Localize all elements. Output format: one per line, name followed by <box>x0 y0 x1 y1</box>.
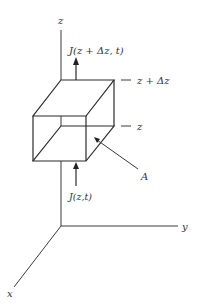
x-axis-label: x <box>7 288 13 299</box>
flux-bottom-label: J(z,t) <box>67 191 92 202</box>
arrow-up-icon <box>73 162 79 169</box>
area-label: A <box>140 171 148 182</box>
flux-arrow-bottom <box>73 162 79 186</box>
x-axis <box>14 226 61 287</box>
axes <box>14 30 178 287</box>
flux-arrow-top <box>73 57 79 80</box>
z-axis-label: z <box>57 15 64 26</box>
flux-top-label: J(z + Δz, t) <box>67 45 124 56</box>
arrow-up-icon <box>73 57 79 65</box>
level-lower-label: z <box>136 121 143 132</box>
top-face-hatched <box>33 80 114 116</box>
level-upper-label: z + Δz <box>136 75 170 86</box>
y-axis-label: y <box>181 221 188 232</box>
box-edges <box>33 80 114 161</box>
diagram-canvas: z y x J(z + Δz, t) J(z,t) z + Δz z A <box>0 0 197 307</box>
pointer-arrowhead-icon <box>94 137 100 143</box>
